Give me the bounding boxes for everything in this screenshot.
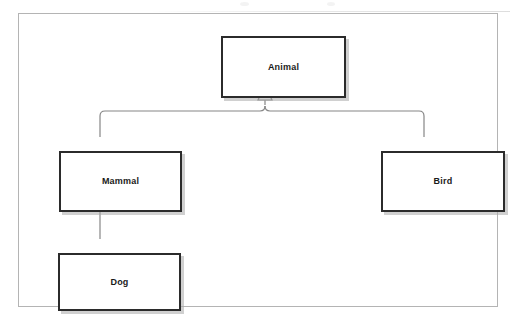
class-name-label: Mammal xyxy=(102,177,139,186)
diagram-canvas: Animal Mammal Bird Dog xyxy=(0,0,515,322)
edge-mammal-to-animal xyxy=(100,106,265,137)
scan-artifact-line xyxy=(150,11,510,12)
class-box-dog[interactable]: Dog xyxy=(58,253,181,311)
class-name-label: Dog xyxy=(110,278,128,287)
scan-artifact-smudge xyxy=(240,2,249,6)
class-name-label: Bird xyxy=(434,177,453,186)
class-box-animal[interactable]: Animal xyxy=(221,36,346,98)
scan-artifact-smudge xyxy=(327,2,335,6)
edge-bird-to-animal xyxy=(265,106,424,137)
class-name-label: Animal xyxy=(268,63,299,72)
class-box-mammal[interactable]: Mammal xyxy=(59,151,182,212)
diagram-frame: Animal Mammal Bird Dog xyxy=(18,13,498,307)
class-box-bird[interactable]: Bird xyxy=(381,151,505,212)
